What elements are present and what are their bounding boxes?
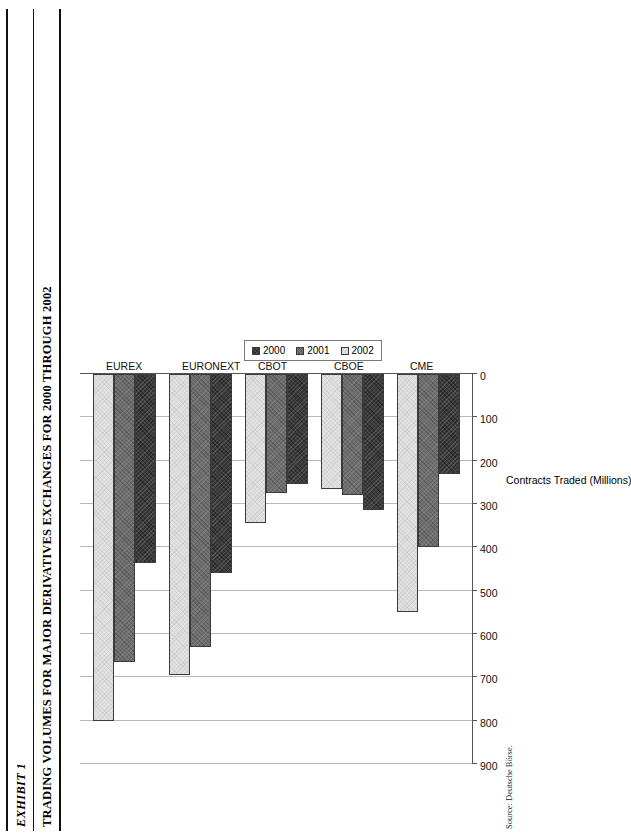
axis-tick-label: 300 [480,500,498,512]
axis-tick-label: 0 [480,370,486,382]
exhibit-title: TRADING VOLUMES FOR MAJOR DERIVATIVES EX… [40,286,54,827]
category-label-cboe: CBOE [334,360,364,372]
bar-cboe-2002 [321,374,342,489]
value-axis-title: Contracts Traded (Millions) [506,474,631,486]
bar-chart: 9008007006005004003002001000Contracts Tr… [74,0,494,839]
legend-label-2001: 2001 [307,345,329,356]
legend-label-2002: 2002 [352,345,374,356]
exhibit-number: EXHIBIT 1 [14,763,28,827]
legend-swatch-2001 [296,347,304,355]
gridline [80,763,472,764]
bar-cbot-2002 [245,374,266,524]
bar-eurex-2002 [93,374,114,721]
bar-cme-2002 [397,374,418,612]
exhibit-header: EXHIBIT 1 TRADING VOLUMES FOR MAJOR DERI… [6,9,61,831]
legend-swatch-2002 [341,347,349,355]
gridline [80,676,472,677]
bar-cboe-2000 [363,374,384,510]
category-axis-line [80,373,472,374]
category-label-cbot: CBOT [258,360,287,372]
legend-item-2002: 2002 [341,345,374,356]
exhibit-title-row: TRADING VOLUMES FOR MAJOR DERIVATIVES EX… [34,9,59,831]
chart-legend: 200020012002 [244,340,382,361]
bar-eurex-2000 [135,374,156,563]
category-label-euronext: EURONEXT [182,360,240,372]
bar-cboe-2001 [342,374,363,495]
bar-cbot-2000 [287,374,308,485]
gridline [80,720,472,721]
category-label-cme: CME [410,360,433,372]
bar-euronext-2000 [211,374,232,573]
header-rule-bottom [59,9,61,831]
bar-cme-2001 [418,374,439,547]
gridline [80,633,472,634]
axis-tick-label: 800 [480,717,498,729]
axis-tick-label: 900 [480,760,498,772]
exhibit-number-row: EXHIBIT 1 [8,9,33,831]
axis-tick-label: 100 [480,413,498,425]
axis-tick-label: 600 [480,630,498,642]
value-axis-line [472,374,473,764]
source-note: Source: Deutsche Börse. [504,745,514,829]
axis-tick-label: 700 [480,673,498,685]
axis-tick-label: 200 [480,457,498,469]
legend-swatch-2000 [252,347,260,355]
category-label-eurex: EUREX [106,360,142,372]
bar-eurex-2001 [114,374,135,662]
legend-item-2001: 2001 [296,345,329,356]
axis-tick-label: 500 [480,587,498,599]
legend-label-2000: 2000 [263,345,285,356]
bar-euronext-2001 [190,374,211,647]
legend-item-2000: 2000 [252,345,285,356]
axis-tick-label: 400 [480,543,498,555]
bar-euronext-2002 [169,374,190,675]
bar-cbot-2001 [266,374,287,493]
bar-cme-2000 [439,374,460,474]
